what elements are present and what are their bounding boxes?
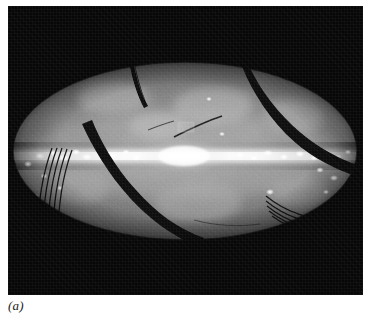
sky-map-plate <box>8 6 363 295</box>
figure-root: (a) <box>0 0 369 320</box>
all-sky-map-image <box>8 6 363 295</box>
limb-darkening <box>13 62 357 240</box>
panel-caption: (a) <box>8 298 24 314</box>
